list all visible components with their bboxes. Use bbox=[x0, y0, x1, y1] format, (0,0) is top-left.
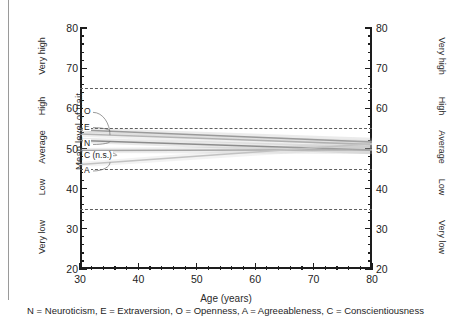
y-tick-label-right-60: 60 bbox=[376, 102, 402, 114]
x-tick-label-50: 50 bbox=[182, 273, 212, 285]
y-tick-label-right-80: 80 bbox=[376, 22, 402, 34]
x-tick-label-40: 40 bbox=[123, 273, 153, 285]
y-tick-label-right-50: 50 bbox=[376, 143, 402, 155]
band-label-right-4: Very low bbox=[437, 202, 447, 272]
x-tick-label-80: 80 bbox=[357, 273, 387, 285]
y-tick-label-left-30: 30 bbox=[52, 223, 78, 235]
x-tick-label-70: 70 bbox=[299, 273, 329, 285]
y-tick-label-right-40: 40 bbox=[376, 183, 402, 195]
y-tick-label-right-30: 30 bbox=[376, 223, 402, 235]
series-label-C: C (n.s.) bbox=[83, 151, 113, 160]
series-label-N: N bbox=[83, 139, 91, 148]
chart-caption: N = Neuroticism, E = Extraversion, O = O… bbox=[0, 305, 451, 316]
x-tick-label-60: 60 bbox=[240, 273, 270, 285]
y-tick-label-right-70: 70 bbox=[376, 62, 402, 74]
x-tick-label-30: 30 bbox=[65, 273, 95, 285]
x-axis-title: Age (years) bbox=[80, 293, 372, 304]
page-edge-rule bbox=[8, 0, 9, 300]
series-label-E: E bbox=[83, 123, 91, 132]
series-label-O: O bbox=[83, 107, 92, 116]
y-axis-title: Mean level of trait bbox=[73, 62, 84, 202]
series-label-A: A bbox=[83, 166, 91, 175]
chart-page: 20304050607080 20304050607080 3040506070… bbox=[0, 0, 451, 325]
series-lines bbox=[80, 28, 372, 269]
plot-area: 20304050607080 20304050607080 3040506070… bbox=[80, 28, 372, 269]
band-label-left-4: Very low bbox=[37, 202, 47, 272]
y-tick-label-left-80: 80 bbox=[52, 22, 78, 34]
